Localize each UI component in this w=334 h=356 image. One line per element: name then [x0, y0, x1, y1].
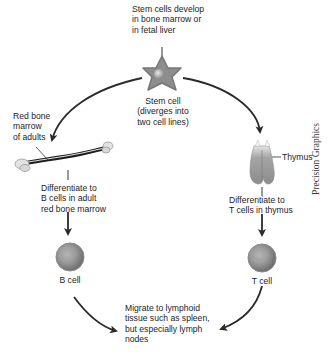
bone-leader-line [36, 147, 48, 160]
migrate-note: Migrate to lymphoid tissue such as splee… [125, 303, 210, 345]
arrow-to-bone-marrow [52, 78, 142, 140]
thymus-icon [250, 140, 274, 184]
stem-origin-line-3: in fetal liver [132, 25, 204, 35]
stem-cell-label-line-1: Stem cell [132, 96, 194, 106]
t-cell-icon [248, 244, 276, 272]
bone-marrow-label-line-1: Red bone [13, 111, 50, 121]
migrate-line-2: tissue such as spleen, [125, 313, 210, 323]
bone-icon [15, 142, 113, 172]
b-cell-label: B cell [52, 275, 88, 285]
credit-label: Precision Graphics [311, 123, 321, 195]
b-differentiate-note: Differentiate to B cells in adult red bo… [41, 183, 106, 214]
migrate-line-1: Migrate to lymphoid [125, 303, 210, 313]
b-differentiate-line-2: B cells in adult [41, 193, 106, 203]
migrate-line-4: nodes [125, 334, 210, 344]
t-cell-label: T cell [244, 276, 280, 286]
stem-origin-note: Stem cells develop in bone marrow or in … [132, 4, 204, 35]
b-cell-icon [56, 243, 84, 271]
stem-cell-label: Stem cell (diverges into two cell lines) [132, 96, 194, 127]
stem-cell-icon [143, 56, 181, 90]
t-differentiate-note: Differentiate to T cells in thymus [229, 195, 293, 216]
t-differentiate-line-2: T cells in thymus [229, 205, 293, 215]
stem-origin-line-1: Stem cells develop [132, 4, 204, 14]
migrate-line-3: but especially lymph [125, 324, 210, 334]
b-differentiate-line-1: Differentiate to [41, 183, 106, 193]
thymus-label: Thymus [282, 152, 313, 162]
b-differentiate-line-3: red bone marrow [41, 204, 106, 214]
arrow-t-to-lymphoid [221, 286, 262, 329]
t-differentiate-line-1: Differentiate to [229, 195, 293, 205]
bone-marrow-label: Red bone marrow of adults [13, 111, 50, 142]
stem-cell-label-line-2: (diverges into [132, 106, 194, 116]
stem-origin-line-2: in bone marrow or [132, 14, 204, 24]
arrow-b-to-lymphoid [74, 297, 116, 331]
bone-marrow-label-line-3: of adults [13, 132, 50, 142]
bone-marrow-label-line-2: marrow [13, 121, 50, 131]
arrow-to-thymus [183, 78, 260, 132]
stem-cell-label-line-3: two cell lines) [132, 117, 194, 127]
